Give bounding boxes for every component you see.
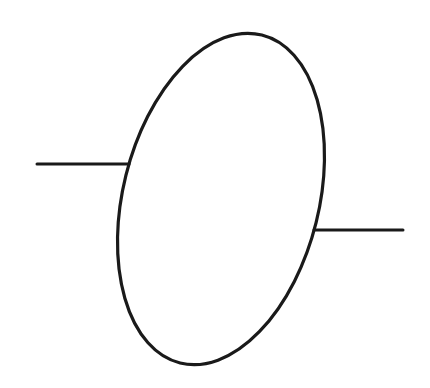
tilted-ellipse: [85, 11, 357, 386]
diagram-canvas: [0, 0, 430, 388]
